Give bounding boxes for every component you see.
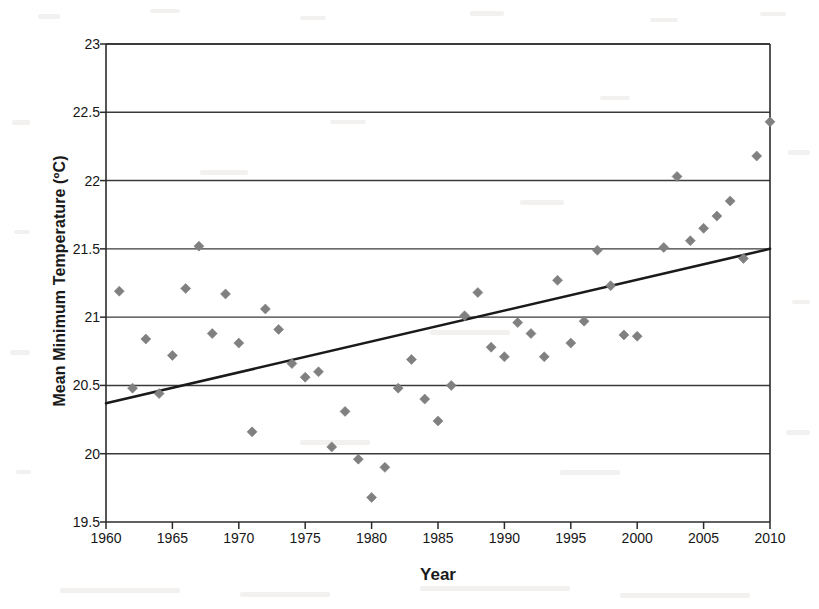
x-tick-label: 1975 [275,530,335,546]
x-tick-label: 1965 [142,530,202,546]
data-point-marker [380,462,390,472]
data-point-marker [420,394,430,404]
data-point-marker [499,352,509,362]
data-point-marker [114,286,124,296]
data-point-marker [606,281,616,291]
data-point-marker [340,406,350,416]
data-point-marker [181,283,191,293]
data-point-marker [566,338,576,348]
gridlines [106,44,770,454]
data-point-marker [194,241,204,251]
data-point-marker [300,372,310,382]
data-point-marker [513,318,523,328]
data-point-marker [207,329,217,339]
data-point-marker [128,383,138,393]
x-tick-label: 1980 [342,530,402,546]
data-point-marker [473,288,483,298]
data-point-marker [725,196,735,206]
x-tick-label: 1985 [408,530,468,546]
y-tick-label: 23 [54,36,100,52]
x-tick-label: 1990 [474,530,534,546]
data-point-marker [167,350,177,360]
plot-frame [106,44,770,522]
x-tick-label: 2000 [607,530,667,546]
data-points [114,117,775,503]
data-point-marker [699,223,709,233]
data-point-marker [539,352,549,362]
data-point-marker [685,236,695,246]
data-point-marker [247,427,257,437]
data-point-marker [260,304,270,314]
data-point-marker [486,342,496,352]
x-tick-label: 2010 [740,530,800,546]
y-tick-label: 19.5 [54,514,100,530]
y-axis-title: Mean Minimum Temperature (ºC) [51,71,69,491]
x-axis-ticks [106,522,770,529]
data-point-marker [274,324,284,334]
data-point-marker [367,492,377,502]
data-point-marker [141,334,151,344]
data-point-marker [526,329,536,339]
x-tick-label: 2005 [674,530,734,546]
data-point-marker [659,242,669,252]
scatter-plot [0,0,819,609]
data-point-marker [446,380,456,390]
x-axis-title: Year [106,565,770,585]
chart-figure: 19.52020.52121.52222.523 196019651970197… [0,0,819,609]
data-point-marker [353,454,363,464]
data-point-marker [327,442,337,452]
data-point-marker [752,151,762,161]
data-point-marker [221,289,231,299]
data-point-marker [406,354,416,364]
x-tick-label: 1960 [76,530,136,546]
data-point-marker [393,383,403,393]
data-point-marker [433,416,443,426]
x-tick-label: 1995 [541,530,601,546]
data-point-marker [592,245,602,255]
data-point-marker [765,117,775,127]
x-tick-label: 1970 [209,530,269,546]
data-point-marker [619,330,629,340]
y-axis-ticks [100,44,106,522]
data-point-marker [553,275,563,285]
data-point-marker [632,331,642,341]
data-point-marker [234,338,244,348]
data-point-marker [313,367,323,377]
trend-line [106,249,770,403]
trend-line-segment [106,249,770,403]
data-point-marker [712,211,722,221]
